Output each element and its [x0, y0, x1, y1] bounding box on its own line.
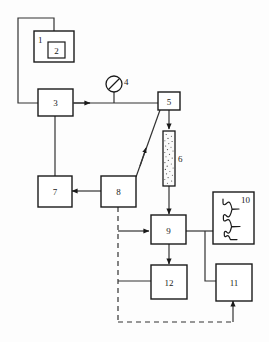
column-6-label: 6 [178, 154, 183, 164]
box-3-label: 3 [53, 98, 58, 108]
box-11-label: 11 [230, 278, 239, 288]
node-5-group[interactable]: 5 [158, 92, 180, 110]
box-9-label: 9 [166, 226, 171, 236]
conn-8-to-5 [136, 110, 160, 177]
box-7-label: 7 [53, 187, 58, 197]
node-2-group[interactable]: 2 [48, 42, 65, 58]
node-4-gauge-group[interactable]: 4 [106, 76, 129, 92]
gauge-4-label: 4 [124, 77, 129, 87]
diagram-root: 1 2 3 4 5 [0, 0, 269, 342]
box-2-label: 2 [54, 46, 59, 56]
node-6-column-group[interactable]: 6 [163, 131, 183, 186]
box-1-label: 1 [38, 35, 43, 45]
node-3-group[interactable]: 3 [38, 89, 73, 116]
node-11-group[interactable]: 11 [216, 264, 252, 301]
node-12-group[interactable]: 12 [151, 265, 187, 299]
box-12-label: 12 [165, 278, 174, 288]
node-9-group[interactable]: 9 [151, 215, 186, 244]
column-6[interactable] [163, 131, 175, 186]
node-7-group[interactable]: 7 [38, 176, 72, 207]
box-10-label: 10 [241, 195, 251, 205]
box-8-label: 8 [116, 187, 121, 197]
node-8-group[interactable]: 8 [101, 176, 136, 207]
node-10-group[interactable]: 10 [213, 192, 254, 244]
flow-diagram-canvas: 1 2 3 4 5 [0, 0, 269, 342]
conn-8-to-5-arrow [140, 148, 146, 166]
box-5-label: 5 [167, 97, 172, 107]
